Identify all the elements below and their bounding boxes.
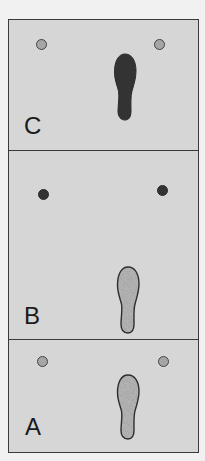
panel-c: C [9,20,198,150]
footprint-icon [116,374,140,440]
panel-label: B [24,304,40,328]
footprint-icon [113,53,137,121]
panel-a: A [9,339,198,452]
panel-label: C [24,114,41,138]
footprint-icon [116,266,140,334]
reference-marker-left [38,189,49,200]
panel-b: B [9,150,198,339]
reference-marker-right [157,185,168,196]
reference-marker-right [158,356,169,367]
reference-marker-left [37,356,48,367]
reference-marker-right [154,39,165,50]
panel-label: A [25,415,41,439]
reference-marker-left [36,39,47,50]
diagram-frame: C B A [8,19,199,453]
